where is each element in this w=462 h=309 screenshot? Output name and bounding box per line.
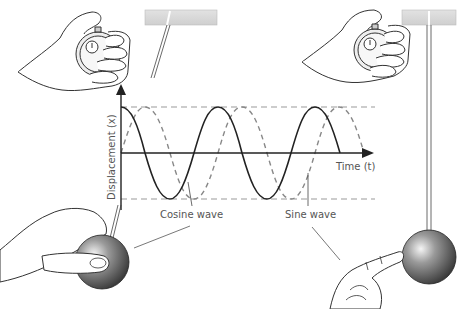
- right-pendulum-support: [402, 10, 456, 236]
- right-bob-hand: [330, 230, 456, 309]
- sine-wave-label: Sine wave: [285, 209, 336, 220]
- x-axis-arrow-icon: [362, 148, 374, 158]
- right-pendulum-bob: [402, 230, 456, 284]
- left-pendulum-support: [145, 10, 217, 78]
- pendulum-diagram: Displacement (x) Time (t) Cosine wave Si…: [0, 0, 462, 309]
- y-axis-arrow-icon: [116, 84, 126, 95]
- left-bob-hand: [0, 205, 129, 289]
- cosine-wave-label: Cosine wave: [160, 209, 223, 220]
- y-axis-label: Displacement (x): [106, 114, 117, 200]
- x-axis-label: Time (t): [335, 161, 375, 172]
- displacement-time-graph: Displacement (x) Time (t): [106, 84, 375, 210]
- left-stopwatch-hand: [18, 12, 130, 91]
- right-stopwatch-hand: [302, 10, 410, 83]
- sine-callout: Sine wave: [285, 173, 340, 260]
